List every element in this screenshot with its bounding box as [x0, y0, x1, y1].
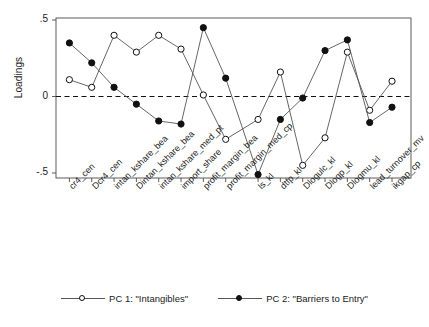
open-circle-icon	[89, 84, 95, 90]
open-circle-icon	[133, 49, 139, 55]
open-circle-icon	[389, 78, 395, 84]
open-circle-icon	[200, 92, 206, 98]
open-circle-icon	[255, 116, 261, 122]
filled-circle-icon	[156, 118, 162, 124]
filled-circle-icon	[111, 84, 117, 90]
open-circle-icon	[367, 107, 373, 113]
open-circle-icon	[277, 69, 283, 75]
filled-circle-icon	[200, 25, 206, 31]
legend-entry-pc2: PC 2: "Barriers to Entry"	[218, 292, 368, 304]
chart-legend: PC 1: "Intangibles" PC 2: "Barriers to E…	[0, 292, 429, 304]
open-circle-icon	[178, 46, 184, 52]
filled-circle-icon	[236, 295, 242, 301]
filled-circle-icon	[344, 37, 350, 43]
filled-circle-icon	[223, 75, 229, 81]
filled-circle-icon	[367, 119, 373, 125]
filled-circle-icon	[300, 95, 306, 101]
filled-circle-icon	[178, 121, 184, 127]
open-circle-icon	[111, 32, 117, 38]
legend-swatch-pc1	[61, 292, 105, 304]
filled-circle-icon	[89, 60, 95, 66]
open-circle-icon	[79, 295, 85, 301]
filled-circle-icon	[66, 40, 72, 46]
legend-label-pc1: PC 1: "Intangibles"	[109, 293, 188, 304]
open-circle-icon	[344, 49, 350, 55]
open-circle-icon	[66, 77, 72, 83]
series-line-pc1	[69, 35, 392, 165]
open-circle-icon	[322, 135, 328, 141]
filled-circle-icon	[133, 101, 139, 107]
open-circle-icon	[300, 162, 306, 168]
filled-circle-icon	[389, 104, 395, 110]
legend-label-pc2: PC 2: "Barriers to Entry"	[266, 293, 368, 304]
open-circle-icon	[223, 136, 229, 142]
loadings-chart-figure: Loadings .5 0 -.5 cr4_cenDcr4_cenintan_k…	[0, 0, 429, 327]
legend-entry-pc1: PC 1: "Intangibles"	[61, 292, 188, 304]
open-circle-icon	[156, 32, 162, 38]
filled-circle-icon	[322, 48, 328, 54]
filled-circle-icon	[277, 116, 283, 122]
filled-circle-icon	[255, 171, 261, 177]
legend-swatch-pc2	[218, 292, 262, 304]
